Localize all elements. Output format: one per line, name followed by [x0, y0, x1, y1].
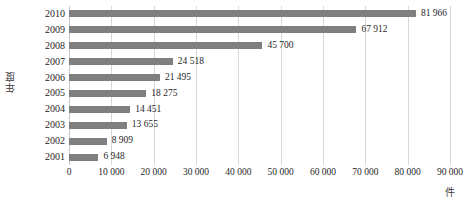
bar-row[interactable]: 8 909 — [69, 133, 450, 149]
bar-value-label: 45 700 — [267, 41, 293, 51]
plot-area: 81 96667 91245 70024 51821 49518 27514 4… — [69, 6, 450, 165]
x-tick-label: 20 000 — [141, 168, 167, 178]
category-label: 2004 — [0, 102, 65, 118]
x-tick-label: 70 000 — [352, 168, 378, 178]
bar-row[interactable]: 18 275 — [69, 86, 450, 102]
x-axis-tick-labels: 010 00020 00030 00040 00050 00060 00070 … — [0, 168, 474, 184]
x-axis-unit-label: 件 — [445, 184, 455, 199]
bar-chart: 年度 2010200920082007200620052004200320022… — [0, 0, 474, 210]
x-tick-label: 10 000 — [98, 168, 124, 178]
category-label: 2006 — [0, 70, 65, 86]
x-tick-label: 80 000 — [395, 168, 421, 178]
bar-value-label: 24 518 — [178, 57, 204, 67]
bar-value-label: 6 948 — [103, 152, 124, 162]
bar-value-label: 14 451 — [135, 105, 161, 115]
category-label: 2009 — [0, 22, 65, 38]
bar-row[interactable]: 24 518 — [69, 54, 450, 70]
category-label: 2002 — [0, 133, 65, 149]
bar[interactable] — [69, 74, 160, 81]
category-axis-labels: 2010200920082007200620052004200320022001 — [0, 6, 65, 165]
bar[interactable] — [69, 138, 107, 145]
bar[interactable] — [69, 106, 130, 113]
bar[interactable] — [69, 10, 416, 17]
bar[interactable] — [69, 26, 356, 33]
bar-row[interactable]: 67 912 — [69, 22, 450, 38]
bar-row[interactable]: 6 948 — [69, 149, 450, 165]
bar-rows: 81 96667 91245 70024 51821 49518 27514 4… — [69, 6, 450, 165]
category-label: 2001 — [0, 149, 65, 165]
category-label: 2007 — [0, 54, 65, 70]
bar-value-label: 18 275 — [151, 89, 177, 99]
x-tick-label: 40 000 — [225, 168, 251, 178]
bar-value-label: 13 655 — [132, 120, 158, 130]
category-label: 2005 — [0, 86, 65, 102]
bar[interactable] — [69, 90, 146, 97]
bar-value-label: 67 912 — [361, 25, 387, 35]
bar[interactable] — [69, 154, 98, 161]
bar-row[interactable]: 81 966 — [69, 6, 450, 22]
x-tick-label: 0 — [67, 168, 72, 178]
x-tick-label: 30 000 — [183, 168, 209, 178]
bar-row[interactable]: 45 700 — [69, 38, 450, 54]
x-tick-label: 60 000 — [310, 168, 336, 178]
bar[interactable] — [69, 42, 262, 49]
bar[interactable] — [69, 58, 173, 65]
x-tick-label: 50 000 — [268, 168, 294, 178]
bar-value-label: 8 909 — [112, 136, 133, 146]
bar-value-label: 81 966 — [421, 9, 447, 19]
bar-value-label: 21 495 — [165, 73, 191, 83]
category-label: 2008 — [0, 38, 65, 54]
bar-row[interactable]: 21 495 — [69, 70, 450, 86]
bar-row[interactable]: 14 451 — [69, 102, 450, 118]
x-tick-label: 90 000 — [437, 168, 463, 178]
category-label: 2010 — [0, 6, 65, 22]
gridline — [450, 6, 451, 165]
category-label: 2003 — [0, 117, 65, 133]
bar[interactable] — [69, 122, 127, 129]
bar-row[interactable]: 13 655 — [69, 117, 450, 133]
